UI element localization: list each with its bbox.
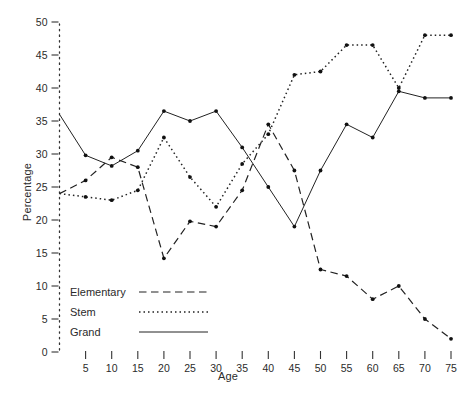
data-point-marker: [423, 33, 427, 37]
x-axis-title: Age: [218, 370, 238, 382]
x-axis-tick-label: 45: [289, 362, 301, 374]
x-axis-tick-label: 60: [367, 362, 379, 374]
data-point-marker: [136, 165, 140, 169]
data-point-marker: [84, 153, 88, 157]
data-point-marker: [162, 109, 166, 113]
data-point-marker: [449, 337, 453, 341]
data-point-marker: [371, 297, 375, 301]
data-point-marker: [188, 175, 192, 179]
y-axis-title: Percentage: [21, 147, 33, 237]
y-axis-tick-label: 20: [36, 214, 48, 226]
x-axis-tick-label: 55: [341, 362, 353, 374]
data-point-marker: [136, 149, 140, 153]
data-point-marker: [345, 43, 349, 47]
legend-label-stem: Stem: [70, 306, 96, 318]
data-point-marker: [345, 274, 349, 278]
data-point-marker: [214, 109, 218, 113]
y-axis: 05101520253035404550: [36, 16, 60, 358]
y-axis-tick-label: 5: [42, 313, 48, 325]
data-point-marker: [188, 219, 192, 223]
y-axis-tick-label: 25: [36, 181, 48, 193]
data-point-marker: [293, 225, 297, 229]
data-point-marker: [293, 73, 297, 77]
y-axis-tick-label: 30: [36, 148, 48, 160]
data-point-marker: [266, 132, 270, 136]
data-point-marker: [214, 225, 218, 229]
x-axis: 51015202530354045505560657075: [83, 351, 457, 374]
data-point-marker: [240, 146, 244, 150]
x-axis-tick-label: 65: [393, 362, 405, 374]
data-point-marker: [266, 185, 270, 189]
x-axis-tick-label: 75: [445, 362, 457, 374]
x-axis-tick-label: 25: [184, 362, 196, 374]
y-axis-tick-label: 10: [36, 280, 48, 292]
data-point-marker: [397, 89, 401, 93]
y-axis-tick-label: 50: [36, 16, 48, 28]
figure-container: 05101520253035404550 5101520253035404550…: [0, 0, 475, 397]
data-point-marker: [214, 205, 218, 209]
series-line: [60, 91, 452, 226]
y-axis-tick-label: 35: [36, 115, 48, 127]
data-point-marker: [162, 256, 166, 260]
data-point-marker: [110, 155, 114, 159]
data-point-marker: [449, 96, 453, 100]
series-elementary: [60, 122, 453, 340]
data-point-marker: [293, 169, 297, 173]
data-point-marker: [266, 122, 270, 126]
x-axis-tick-label: 70: [419, 362, 431, 374]
x-axis-tick-label: 40: [262, 362, 274, 374]
data-point-marker: [423, 96, 427, 100]
chart-legend: ElementaryStemGrand: [70, 286, 208, 338]
data-point-marker: [84, 195, 88, 199]
data-point-marker: [84, 179, 88, 183]
data-point-marker: [319, 70, 323, 74]
legend-label-elementary: Elementary: [70, 286, 126, 298]
y-axis-tick-label: 45: [36, 49, 48, 61]
series-line: [60, 35, 452, 207]
x-axis-tick-label: 50: [315, 362, 327, 374]
data-point-marker: [240, 162, 244, 166]
data-point-marker: [449, 33, 453, 37]
x-axis-tick-label: 10: [106, 362, 118, 374]
series-grand: [60, 89, 453, 228]
data-point-marker: [162, 136, 166, 140]
data-point-marker: [397, 284, 401, 288]
data-point-marker: [110, 164, 114, 168]
data-point-marker: [188, 119, 192, 123]
data-point-marker: [345, 122, 349, 126]
data-point-marker: [240, 188, 244, 192]
x-axis-tick-label: 5: [83, 362, 89, 374]
y-axis-tick-label: 40: [36, 82, 48, 94]
line-chart: 05101520253035404550 5101520253035404550…: [0, 0, 475, 397]
x-axis-tick-label: 15: [132, 362, 144, 374]
data-point-marker: [110, 198, 114, 202]
y-axis-tick-label: 15: [36, 247, 48, 259]
series-line: [60, 124, 452, 338]
data-point-marker: [371, 43, 375, 47]
series-stem: [60, 33, 453, 208]
data-point-marker: [136, 188, 140, 192]
data-point-marker: [319, 169, 323, 173]
y-axis-tick-label: 0: [42, 346, 48, 358]
x-axis-tick-label: 20: [158, 362, 170, 374]
data-point-marker: [397, 86, 401, 90]
data-point-marker: [319, 268, 323, 272]
data-point-marker: [371, 136, 375, 140]
data-point-marker: [423, 317, 427, 321]
legend-label-grand: Grand: [70, 326, 101, 338]
